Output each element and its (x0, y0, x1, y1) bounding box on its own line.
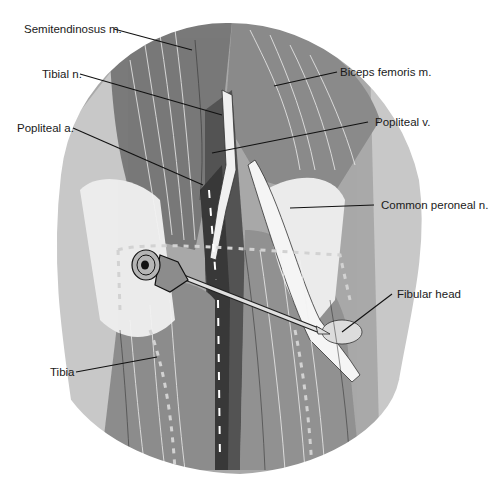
needle-lumen (141, 261, 149, 270)
label-semitendinosus: Semitendinosus m. (24, 23, 122, 35)
label-tibia: Tibia (50, 366, 75, 378)
label-common-peroneal-nerve: Common peroneal n. (381, 199, 488, 211)
label-popliteal-artery: Popliteal a. (17, 122, 74, 134)
label-fibular-head: Fibular head (397, 288, 461, 300)
label-biceps-femoris: Biceps femoris m. (340, 66, 431, 78)
label-tibial-nerve: Tibial n. (42, 68, 82, 80)
anatomy-illustration: Semitendinosus m. Tibial n. Popliteal a.… (0, 0, 490, 490)
label-popliteal-vein: Popliteal v. (375, 116, 430, 128)
